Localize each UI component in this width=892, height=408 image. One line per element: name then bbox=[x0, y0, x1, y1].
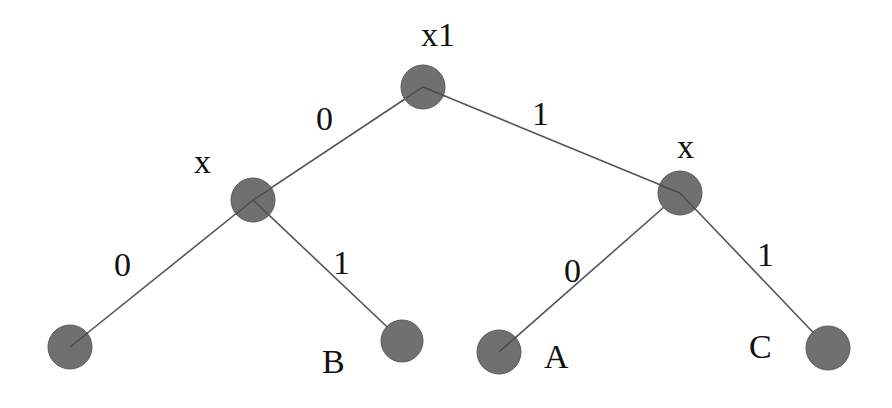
leaf-label-c: C bbox=[749, 330, 772, 364]
edge-label-right-rl: 0 bbox=[564, 254, 581, 288]
node-label-left: x bbox=[194, 145, 211, 179]
edge-label-left-lr: 1 bbox=[333, 246, 350, 280]
edge-root-left bbox=[253, 87, 423, 200]
edge-left-leaf-lr bbox=[253, 200, 402, 341]
leaf-label-a: A bbox=[544, 340, 569, 374]
leaf-node-rr bbox=[806, 326, 850, 370]
edge-right-leaf-rl bbox=[499, 193, 680, 352]
edge-right-leaf-rr bbox=[680, 193, 828, 348]
edge-root-right bbox=[423, 87, 680, 193]
decision-tree-diagram: x1 x x B A C 0 1 0 1 0 1 bbox=[0, 0, 892, 408]
edge-label-root-left: 0 bbox=[316, 102, 333, 136]
edge-label-left-ll: 0 bbox=[114, 248, 131, 282]
edge-label-right-rr: 1 bbox=[757, 238, 774, 272]
leaf-node-lr bbox=[381, 320, 423, 362]
leaf-label-b: B bbox=[322, 345, 345, 379]
node-label-right: x bbox=[677, 130, 694, 164]
edge-label-root-right: 1 bbox=[532, 97, 549, 131]
edge-left-leaf-ll bbox=[70, 200, 253, 347]
node-label-root: x1 bbox=[421, 18, 455, 52]
